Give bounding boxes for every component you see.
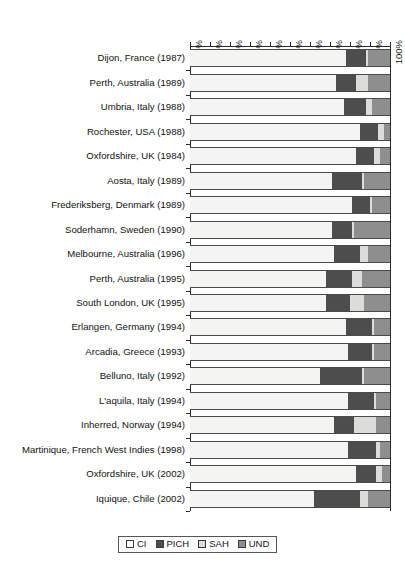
bar-segment-und xyxy=(376,417,390,433)
bar-segment-sah xyxy=(360,246,368,262)
legend-item: CI xyxy=(126,539,147,549)
bar-segment-und xyxy=(368,50,390,66)
bar-segment-ci xyxy=(190,197,352,213)
bar-segment-ci xyxy=(190,50,346,66)
bar-segment-pich xyxy=(348,442,376,458)
plot-right-border xyxy=(390,46,391,511)
bar-segment-pich xyxy=(346,319,372,335)
x-axis-tick-labels: 0%10%20%30%40%50%60%70%80%90%100% xyxy=(0,0,405,46)
bar-row xyxy=(190,196,390,214)
legend-item: PICH xyxy=(156,539,190,549)
y-axis-label: Perth, Australia (1989) xyxy=(0,77,185,88)
y-axis-label: Aosta, Italy (1989) xyxy=(0,175,185,186)
legend-swatch-icon xyxy=(198,540,206,548)
bar-segment-und xyxy=(380,442,390,458)
legend-label: UND xyxy=(249,539,270,549)
legend-item: SAH xyxy=(198,539,229,549)
bar-segment-ci xyxy=(190,99,344,115)
bar-segment-sah xyxy=(360,491,368,507)
legend-label: PICH xyxy=(167,539,190,549)
stacked-bar-chart: 0%10%20%30%40%50%60%70%80%90%100% Dijon,… xyxy=(0,0,405,564)
bar-row xyxy=(190,172,390,190)
bar-segment-pich xyxy=(326,271,352,287)
bar-segment-pich xyxy=(344,99,366,115)
bar-segment-und xyxy=(368,491,390,507)
bar-row xyxy=(190,98,390,116)
bar-segment-und xyxy=(364,368,390,384)
bar-segment-sah xyxy=(352,271,362,287)
y-axis-label: Oxfordshire, UK (1984) xyxy=(0,150,185,161)
y-axis-label: Belluno, Italy (1992) xyxy=(0,370,185,381)
y-axis-label: Arcadia, Greece (1993) xyxy=(0,346,185,357)
bar-segment-und xyxy=(372,197,390,213)
bar-segment-sah xyxy=(354,417,376,433)
legend-label: SAH xyxy=(209,539,229,549)
bar-segment-pich xyxy=(314,491,360,507)
bar-segment-ci xyxy=(190,442,348,458)
bar-segment-ci xyxy=(190,75,336,91)
x-tick-label: 100% xyxy=(394,40,404,64)
bar-segment-ci xyxy=(190,246,334,262)
bar-segment-ci xyxy=(190,417,334,433)
bar-segment-und xyxy=(384,124,390,140)
bar-segment-pich xyxy=(332,173,362,189)
bar-segment-pich xyxy=(332,222,352,238)
bar-row xyxy=(190,74,390,92)
bar-segment-ci xyxy=(190,148,356,164)
bar-segment-und xyxy=(380,148,390,164)
y-axis-label: Dijon, France (1987) xyxy=(0,52,185,63)
bar-segment-ci xyxy=(190,124,360,140)
y-axis-label: Frederiksberg, Denmark (1989) xyxy=(0,199,185,210)
bar-segment-sah xyxy=(350,295,364,311)
bar-segment-ci xyxy=(190,393,348,409)
bar-segment-ci xyxy=(190,319,346,335)
y-axis-label: Umbria, Italy (1988) xyxy=(0,101,185,112)
bar-segment-ci xyxy=(190,344,348,360)
y-axis-label: Soderhamn, Sweden (1990) xyxy=(0,224,185,235)
bar-segment-ci xyxy=(190,368,320,384)
bar-segment-sah xyxy=(356,75,368,91)
bar-row xyxy=(190,465,390,483)
bar-segment-und xyxy=(372,99,390,115)
bar-row xyxy=(190,221,390,239)
y-axis-label: Iquique, Chile (2002) xyxy=(0,493,185,504)
plot-area xyxy=(190,46,390,511)
bar-segment-und xyxy=(364,173,390,189)
bar-row xyxy=(190,490,390,508)
bar-segment-und xyxy=(368,246,390,262)
legend-label: CI xyxy=(137,539,147,549)
y-axis-label: Erlangen, Germany (1994) xyxy=(0,321,185,332)
bar-row xyxy=(190,318,390,336)
bar-segment-und xyxy=(374,319,390,335)
bar-segment-ci xyxy=(190,271,326,287)
legend-swatch-icon xyxy=(156,540,164,548)
bar-segment-ci xyxy=(190,491,314,507)
bar-segment-ci xyxy=(190,222,332,238)
bar-segment-pich xyxy=(334,246,360,262)
bar-segment-und xyxy=(374,344,390,360)
bar-segment-ci xyxy=(190,295,326,311)
bar-segment-pich xyxy=(320,368,362,384)
bar-segment-pich xyxy=(336,75,356,91)
y-axis-label: Martinique, French West Indies (1998) xyxy=(0,444,185,455)
bar-segment-pich xyxy=(334,417,354,433)
y-axis-label: L'aquila, Italy (1994) xyxy=(0,395,185,406)
y-axis-label: Perth, Australia (1995) xyxy=(0,273,185,284)
legend-swatch-icon xyxy=(238,540,246,548)
bar-row xyxy=(190,147,390,165)
bar-row xyxy=(190,343,390,361)
bar-segment-pich xyxy=(352,197,370,213)
chart-legend: CIPICHSAHUND xyxy=(118,536,277,553)
y-axis-label: Inherred, Norway (1994) xyxy=(0,419,185,430)
bar-segment-und xyxy=(354,222,390,238)
y-axis-label: South London, UK (1995) xyxy=(0,297,185,308)
bar-row xyxy=(190,270,390,288)
legend-item: UND xyxy=(238,539,270,549)
bar-segment-pich xyxy=(326,295,350,311)
bar-segment-pich xyxy=(348,393,374,409)
bar-row xyxy=(190,49,390,67)
bar-row xyxy=(190,441,390,459)
y-axis-label: Oxfordshire, UK (2002) xyxy=(0,468,185,479)
bar-segment-pich xyxy=(348,344,372,360)
y-axis-label: Melbourne, Australia (1996) xyxy=(0,248,185,259)
